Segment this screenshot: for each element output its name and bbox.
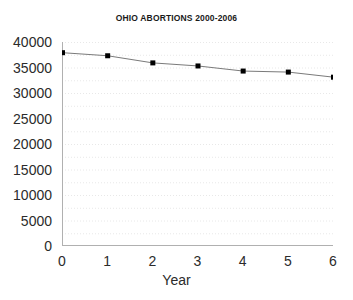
chart-figure: OHIO ABORTIONS 2000-2006 050001000015000…	[0, 0, 353, 300]
x-axis-tick-label: 4	[233, 254, 253, 268]
x-axis-tick-label: 3	[188, 254, 208, 268]
x-axis-tick-label: 6	[323, 254, 343, 268]
data-point-marker	[286, 70, 291, 75]
x-axis-tick-label: 1	[97, 254, 117, 268]
x-axis-tick-label: 0	[52, 254, 72, 268]
line-chart-svg	[62, 42, 333, 246]
data-point-marker	[150, 60, 155, 65]
x-axis-title: Year	[0, 272, 353, 288]
data-point-marker	[331, 75, 333, 80]
data-point-marker	[241, 69, 246, 74]
plot-area	[62, 42, 333, 246]
x-axis-tick-label: 2	[142, 254, 162, 268]
x-axis-tick-label: 5	[278, 254, 298, 268]
data-point-marker	[196, 63, 201, 68]
data-point-marker	[62, 50, 65, 55]
data-point-marker	[105, 53, 110, 58]
